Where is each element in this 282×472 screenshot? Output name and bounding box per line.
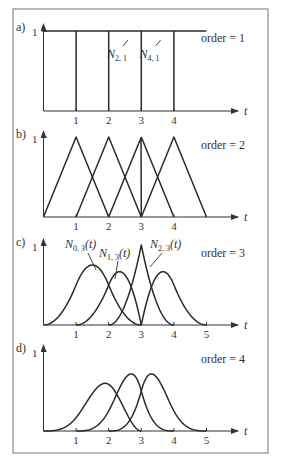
- basis-label: N4, 1: [139, 47, 160, 63]
- panel-d: d)1t12345order = 4: [16, 341, 248, 446]
- bspline-figure: a)1t1234order = 1N2, 1N4, 1b)1t1234order…: [0, 0, 282, 472]
- panel-a: a)1t1234order = 1N2, 1N4, 1: [16, 20, 248, 126]
- x-axis-label: t: [244, 318, 248, 332]
- basis-curve: [76, 374, 174, 431]
- x-tick-label: 5: [204, 328, 210, 340]
- x-tick-label: 4: [171, 114, 177, 126]
- x-tick-label: 1: [73, 434, 79, 446]
- x-tick-label: 4: [171, 434, 177, 446]
- order-label: order = 2: [201, 138, 245, 152]
- basis-label: N0, 3(t): [64, 237, 96, 253]
- x-tick-label: 4: [171, 220, 177, 232]
- basis-curve: [141, 137, 206, 217]
- basis-curve: [76, 137, 141, 217]
- panel-label: a): [16, 20, 25, 34]
- x-tick-label: 3: [139, 220, 145, 232]
- basis-curve: [76, 272, 141, 325]
- x-tick-label: 1: [73, 114, 79, 126]
- y-tick-label: 1: [32, 133, 38, 145]
- x-tick-label: 1: [73, 220, 79, 232]
- order-label: order = 3: [201, 246, 245, 260]
- order-label: order = 1: [201, 31, 245, 45]
- basis-label: N2, 3(t): [149, 237, 181, 253]
- y-tick-label: 1: [32, 26, 38, 38]
- x-tick-label: 1: [73, 328, 79, 340]
- y-tick-label: 1: [32, 347, 38, 359]
- y-tick-label: 1: [32, 241, 38, 253]
- order-label: order = 4: [201, 352, 245, 366]
- panel-label: b): [16, 127, 26, 141]
- x-tick-label: 3: [139, 328, 145, 340]
- panel-b: b)1t1234order = 2: [16, 127, 248, 232]
- basis-label: N2, 1: [106, 47, 127, 63]
- x-tick-label: 3: [139, 434, 145, 446]
- x-tick-label: 3: [139, 114, 145, 126]
- x-tick-label: 2: [106, 434, 112, 446]
- panel-label: d): [16, 341, 26, 355]
- x-tick-label: 2: [106, 114, 112, 126]
- x-tick-label: 4: [171, 328, 177, 340]
- x-axis-label: t: [244, 104, 248, 118]
- x-axis-label: t: [244, 424, 248, 438]
- panel-label: c): [16, 235, 25, 249]
- basis-label: N1, 3(t): [98, 246, 130, 262]
- x-axis-label: t: [244, 210, 248, 224]
- basis-curve: [141, 272, 206, 325]
- basis-curve: [109, 374, 207, 431]
- panels-group: a)1t1234order = 1N2, 1N4, 1b)1t1234order…: [16, 20, 248, 446]
- x-tick-label: 2: [106, 328, 112, 340]
- x-tick-label: 2: [106, 220, 112, 232]
- panel-c: c)1t12345order = 3N0, 3(t)N1, 3(t)N2, 3(…: [16, 235, 248, 340]
- basis-curve: [44, 137, 109, 217]
- x-tick-label: 5: [204, 434, 210, 446]
